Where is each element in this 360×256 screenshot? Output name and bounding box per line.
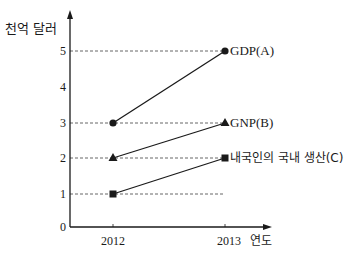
- x-tick-labels: 2012 2013: [101, 234, 241, 248]
- y-tick-4: 4: [60, 80, 66, 94]
- y-tick-labels: 0 1 2 3 4 5: [60, 44, 66, 234]
- label-gnp: GNP(B): [230, 115, 273, 130]
- line-chart: 천억 달러 연도 0 1 2 3 4 5 2012 2013 GDP(A) GN…: [0, 0, 360, 256]
- domestic-marker-2012-square-icon: [110, 191, 117, 198]
- series-markers: [109, 47, 230, 197]
- y-tick-3: 3: [60, 116, 66, 130]
- y-tick-0: 0: [60, 220, 66, 234]
- y-tick-5: 5: [60, 44, 66, 58]
- x-axis-label: 연도: [250, 234, 272, 248]
- gdp-marker-2012-circle-icon: [109, 119, 116, 126]
- series-gdp-line: [113, 51, 225, 123]
- y-axis-arrow-icon: [67, 10, 73, 19]
- y-tick-1: 1: [60, 187, 66, 201]
- x-tick-label-2012: 2012: [101, 234, 125, 248]
- x-axis-arrow-icon: [263, 224, 272, 230]
- label-domestic-production: 내국인의 국내 생산(C): [230, 151, 343, 165]
- gnp-marker-2013-triangle-icon: [221, 118, 230, 126]
- series-lines: [113, 51, 225, 194]
- y-tick-2: 2: [60, 151, 66, 165]
- domestic-marker-2013-square-icon: [222, 155, 229, 162]
- y-axis-label: 천억 달러: [5, 21, 57, 36]
- grid-lines: [70, 51, 225, 194]
- series-domestic-line: [113, 158, 225, 194]
- x-tick-label-2013: 2013: [217, 234, 241, 248]
- gdp-marker-2013-circle-icon: [221, 47, 228, 54]
- series-gnp-line: [113, 123, 225, 158]
- label-gdp: GDP(A): [230, 43, 274, 58]
